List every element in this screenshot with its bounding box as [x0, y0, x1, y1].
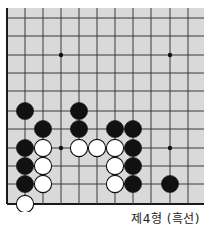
white-stone	[106, 139, 123, 156]
black-stone	[34, 120, 51, 137]
black-stone	[16, 102, 33, 119]
black-stone	[16, 175, 33, 192]
star-point	[59, 146, 63, 150]
black-stone	[70, 120, 87, 137]
black-stone	[106, 120, 123, 137]
problem-caption: 제4형 (흑선)	[131, 209, 200, 225]
star-point	[168, 53, 172, 57]
star-point	[168, 146, 172, 150]
board-surface	[7, 8, 204, 204]
white-stone	[34, 139, 51, 156]
white-stone	[88, 139, 105, 156]
black-stone	[124, 120, 141, 137]
white-stone	[70, 139, 87, 156]
white-stone	[106, 157, 123, 174]
black-stone	[124, 139, 141, 156]
white-stone	[34, 175, 51, 192]
board-grid	[7, 8, 204, 204]
black-stone	[16, 157, 33, 174]
white-stone	[16, 195, 33, 212]
white-stone	[106, 175, 123, 192]
black-stone	[124, 157, 141, 174]
black-stone	[161, 175, 178, 192]
white-stone	[34, 157, 51, 174]
go-board	[0, 0, 204, 212]
black-stone	[70, 102, 87, 119]
black-stone	[124, 175, 141, 192]
star-point	[59, 53, 63, 57]
black-stone	[16, 139, 33, 156]
